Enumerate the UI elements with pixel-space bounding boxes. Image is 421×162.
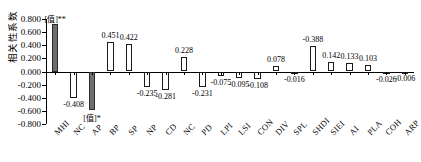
bar-value-label: [值]** (45, 13, 66, 24)
bar-value-label: 0.103 (359, 54, 377, 63)
y-axis-tick (42, 58, 46, 59)
bar-value-label: 0.228 (175, 46, 193, 55)
x-axis-tick (55, 72, 56, 75)
x-axis-tick (147, 72, 148, 75)
bar-bp-3 (107, 42, 114, 72)
x-axis-tick (110, 72, 111, 75)
y-axis-tick (42, 111, 46, 112)
x-label-ap-2: AP (89, 122, 104, 137)
y-axis-tick-label: 0.400 (21, 40, 41, 50)
bar-shdi-14 (310, 46, 317, 71)
y-axis-tick-label: 0.200 (21, 53, 41, 63)
plot-area: 0.8000.6000.4000.2000.000-0.200-0.400-0.… (46, 19, 414, 124)
x-axis-tick (92, 72, 93, 75)
y-axis-tick (42, 124, 46, 125)
y-axis-tick (42, 72, 46, 73)
bar-nc-1 (70, 72, 77, 99)
bar-sp-4 (126, 44, 133, 72)
x-label-sp-4: SP (126, 123, 140, 137)
x-axis-tick (350, 72, 351, 75)
bar-value-label: -0.016 (284, 75, 305, 84)
bar-mhi-0 (52, 24, 59, 71)
y-axis-tick-label: -0.800 (18, 119, 41, 129)
x-label-ai-16: AI (347, 123, 361, 137)
bar-nc-7 (181, 57, 188, 72)
x-axis-tick (258, 72, 259, 75)
bar-value-label: -0.006 (394, 74, 415, 83)
y-axis-tick (42, 45, 46, 46)
x-label-pd-8: PD (199, 122, 214, 137)
y-axis-tick-label: 0.600 (21, 27, 41, 37)
x-axis-tick (276, 72, 277, 75)
x-label-np-5: NP (144, 122, 159, 137)
bar-value-label: -0.231 (192, 89, 213, 98)
bar-value-label: 0.133 (341, 52, 359, 61)
x-axis-tick (221, 72, 222, 75)
y-axis-tick (42, 98, 46, 99)
y-axis-tick-label: -0.600 (18, 106, 41, 116)
bar-value-label: -0.408 (63, 100, 84, 109)
bar-value-label: 0.078 (267, 55, 285, 64)
y-axis-tick-label: -0.400 (18, 93, 41, 103)
bar-value-label: [值]* (83, 112, 100, 123)
bar-ap-2 (89, 72, 96, 110)
x-axis-tick (166, 72, 167, 75)
bar-pla-17 (365, 65, 372, 72)
bar-value-label: 0.451 (101, 31, 119, 40)
bar-value-label: 0.422 (120, 33, 138, 42)
y-axis-tick (42, 85, 46, 86)
zero-baseline (46, 72, 414, 73)
bar-value-label: -0.388 (302, 35, 323, 44)
bar-value-label: -0.108 (247, 81, 268, 90)
bar-value-label: 0.142 (322, 51, 340, 60)
x-axis-tick (386, 72, 387, 75)
x-axis-tick (202, 72, 203, 75)
y-axis-tick-label: 0.000 (21, 67, 41, 77)
x-axis-tick (331, 72, 332, 75)
y-axis-tick-label: 0.800 (21, 14, 41, 24)
x-axis-tick (74, 72, 75, 75)
bar-siei-15 (328, 62, 335, 71)
y-axis-tick-label: -0.200 (18, 80, 41, 90)
x-axis-tick (239, 72, 240, 75)
bar-value-label: -0.281 (155, 92, 176, 101)
x-axis-tick (129, 72, 130, 75)
x-axis-tick (368, 72, 369, 75)
y-axis-tick (42, 32, 46, 33)
x-label-bp-3: BP (107, 122, 122, 137)
y-axis-title: 相关性系数 (5, 0, 19, 77)
bar-ai-16 (346, 63, 353, 72)
x-axis-tick (184, 72, 185, 75)
x-axis-tick (313, 72, 314, 75)
